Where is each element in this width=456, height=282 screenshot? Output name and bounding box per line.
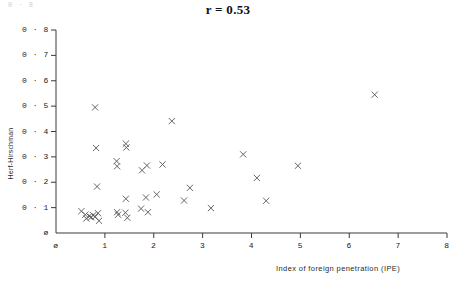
- data-point: [154, 191, 160, 197]
- axes-group: [51, 30, 447, 238]
- data-point: [93, 145, 99, 151]
- data-point: [254, 175, 260, 181]
- data-point: [96, 218, 102, 224]
- data-point: [181, 197, 187, 203]
- data-point: [263, 198, 269, 204]
- data-point: [372, 92, 378, 98]
- data-point: [114, 163, 120, 169]
- data-point: [169, 118, 175, 124]
- data-point: [94, 183, 100, 189]
- data-point: [83, 215, 89, 221]
- data-point: [159, 161, 165, 167]
- data-point: [295, 163, 301, 169]
- data-point: [92, 104, 98, 110]
- data-point: [122, 210, 128, 216]
- data-point: [124, 215, 130, 221]
- scatter-plot-figure: 0 · 8 r = 0.53 Herf-Hirschman Index of f…: [0, 0, 456, 282]
- data-point: [240, 151, 246, 157]
- data-point: [138, 206, 144, 212]
- data-point: [187, 185, 193, 191]
- data-point: [144, 162, 150, 168]
- plot-area: [0, 0, 456, 282]
- data-point: [123, 196, 129, 202]
- data-markers-group: [78, 92, 377, 224]
- data-point: [145, 209, 151, 215]
- data-point: [123, 144, 129, 150]
- data-point: [208, 205, 214, 211]
- data-point: [95, 210, 101, 216]
- data-point: [143, 194, 149, 200]
